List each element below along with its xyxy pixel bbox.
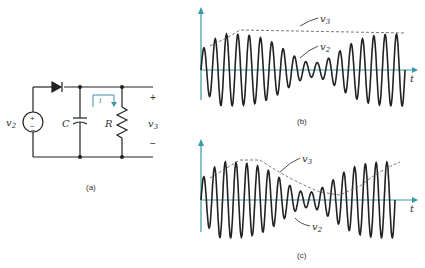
current-arrow-icon bbox=[93, 95, 117, 107]
output-minus-sign: − bbox=[150, 138, 156, 149]
envelope-label-b: v3 bbox=[320, 13, 331, 26]
caption-b: (b) bbox=[297, 117, 307, 126]
time-axis-label-c: t bbox=[410, 203, 415, 214]
time-axis-label-b: t bbox=[410, 73, 415, 84]
figure: + ~ − v2 C R i + v3 − (a) v3 v2 t (b) v3… bbox=[0, 0, 425, 268]
output-label: v3 bbox=[148, 118, 159, 131]
source-minus-sign: − bbox=[31, 126, 36, 135]
resistor-label: R bbox=[104, 118, 113, 129]
waveform-plot-c bbox=[198, 139, 418, 238]
capacitor-label: C bbox=[62, 118, 70, 129]
waveform-plot-b bbox=[198, 7, 418, 106]
caption-a: (a) bbox=[86, 183, 96, 192]
diode-icon bbox=[52, 82, 61, 92]
circuit-diagram bbox=[23, 82, 153, 157]
signal-label-c: v2 bbox=[312, 221, 323, 234]
envelope-label-c: v3 bbox=[302, 153, 313, 166]
resistor-icon bbox=[117, 107, 127, 138]
current-label: i bbox=[99, 96, 102, 105]
output-plus-sign: + bbox=[150, 92, 156, 103]
source-label: v2 bbox=[6, 117, 17, 130]
signal-label-b: v2 bbox=[320, 41, 331, 54]
caption-c: (c) bbox=[297, 251, 307, 260]
